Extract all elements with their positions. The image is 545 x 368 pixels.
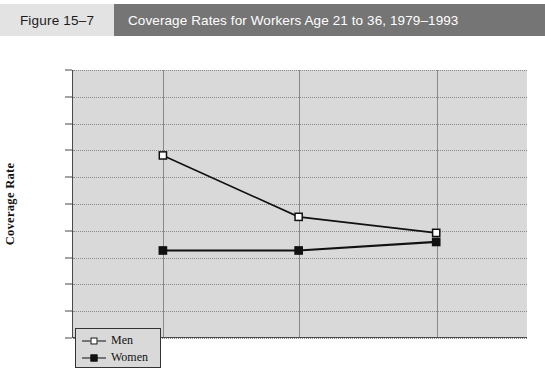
y-tick-mark-65 bbox=[65, 150, 72, 151]
data-point-men-1979[interactable] bbox=[159, 152, 166, 159]
plot-inner bbox=[73, 70, 527, 337]
y-tick-mark-50 bbox=[65, 230, 72, 231]
data-point-men-1993[interactable] bbox=[433, 229, 440, 236]
legend-marker-open-square-icon bbox=[81, 335, 107, 347]
y-tick-mark-40 bbox=[65, 284, 72, 285]
y-tick-mark-80 bbox=[65, 70, 72, 71]
data-point-women-1988[interactable] bbox=[295, 247, 302, 254]
figure-title-block: Coverage Rates for Workers Age 21 to 36,… bbox=[114, 4, 545, 36]
legend-label-women: Women bbox=[111, 350, 148, 365]
figure-number-label: Figure 15–7 bbox=[20, 13, 94, 28]
plot-area bbox=[72, 70, 527, 338]
figure-number-block: Figure 15–7 bbox=[0, 4, 114, 36]
series-line-men bbox=[163, 155, 436, 232]
chart-legend: Men Women bbox=[75, 328, 161, 368]
y-tick-mark-60 bbox=[65, 177, 72, 178]
data-point-men-1988[interactable] bbox=[295, 213, 302, 220]
y-tick-mark-75 bbox=[65, 96, 72, 97]
y-tick-mark-30 bbox=[65, 338, 72, 339]
legend-marker-filled-square-icon bbox=[81, 352, 107, 364]
legend-label-men: Men bbox=[111, 333, 133, 348]
figure-title: Coverage Rates for Workers Age 21 to 36,… bbox=[128, 13, 458, 28]
legend-item-women[interactable]: Women bbox=[81, 349, 155, 366]
chart-container: Coverage Rate 3035404550556065707580 197… bbox=[0, 36, 545, 362]
y-tick-mark-45 bbox=[65, 257, 72, 258]
legend-item-men[interactable]: Men bbox=[81, 332, 155, 349]
data-series-layer bbox=[73, 70, 527, 337]
y-tick-mark-70 bbox=[65, 123, 72, 124]
data-point-women-1993[interactable] bbox=[433, 238, 440, 245]
y-tick-mark-35 bbox=[65, 311, 72, 312]
y-tick-mark-55 bbox=[65, 204, 72, 205]
y-axis-title: Coverage Rate bbox=[3, 163, 18, 246]
figure-header: Figure 15–7 Coverage Rates for Workers A… bbox=[0, 4, 545, 36]
data-point-women-1979[interactable] bbox=[159, 247, 166, 254]
